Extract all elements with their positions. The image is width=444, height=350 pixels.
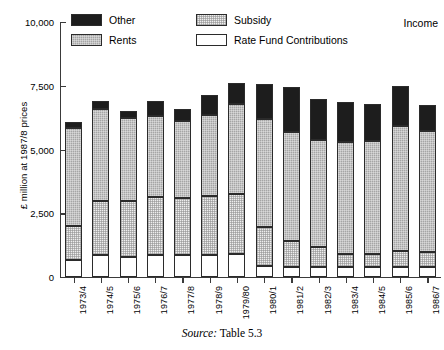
legend-label-rents: Rents xyxy=(109,34,136,46)
source-prefix: Source: xyxy=(182,327,217,339)
bar-segment-rents xyxy=(337,142,354,254)
bar-1976-7 xyxy=(147,22,164,277)
chart-legend: OtherRentsSubsidyRate Fund Contributions xyxy=(71,14,321,56)
bar-segment-subsidy xyxy=(392,251,409,267)
x-tick-label: 1973/4 xyxy=(78,286,88,314)
bar-segment-subsidy xyxy=(65,226,82,260)
chart-figure: £ million at 1987/8 prices 02,5005,0007,… xyxy=(0,0,444,350)
bar-segment-rfc xyxy=(256,266,273,277)
bar-segment-other xyxy=(392,86,409,127)
bar-segment-rfc xyxy=(147,255,164,277)
bar-segment-rents xyxy=(147,116,164,196)
bar-segment-rfc xyxy=(228,254,245,277)
bar-segment-rfc xyxy=(283,267,300,277)
x-tick-mark xyxy=(210,278,211,283)
bar-segment-subsidy xyxy=(337,254,354,267)
bar-segment-rents xyxy=(120,118,137,201)
bar-segment-other xyxy=(337,102,354,142)
x-tick-label: 1986/7 xyxy=(431,286,441,314)
legend-item-subsidy[interactable]: Subsidy xyxy=(196,14,271,26)
bar-1983-4 xyxy=(337,22,354,277)
bar-1982-3 xyxy=(310,22,327,277)
y-tick-label: 0 xyxy=(4,272,54,283)
legend-swatch-icon-other xyxy=(71,14,102,26)
bar-segment-other xyxy=(310,99,327,140)
source-note: Source: Table 5.3 xyxy=(0,327,444,339)
bar-segment-other xyxy=(65,122,82,128)
source-text: Table 5.3 xyxy=(220,327,263,339)
x-tick-label: 1981/2 xyxy=(295,286,305,314)
bar-1975-6 xyxy=(120,22,137,277)
bar-segment-other xyxy=(92,101,109,109)
bar-segment-rfc xyxy=(174,255,191,277)
bar-segment-rfc xyxy=(337,267,354,277)
corner-label: Income xyxy=(404,17,438,29)
bar-segment-rents xyxy=(310,140,327,247)
bar-segment-subsidy xyxy=(120,201,137,257)
bar-1986-7 xyxy=(419,22,436,277)
bar-segment-rents xyxy=(201,115,218,197)
x-tick-mark xyxy=(400,278,401,283)
bar-segment-other xyxy=(120,111,137,118)
bar-segment-other xyxy=(364,104,381,141)
x-tick-mark xyxy=(128,278,129,283)
x-tick-mark xyxy=(373,278,374,283)
bar-segment-rfc xyxy=(201,255,218,277)
bar-segment-other xyxy=(283,87,300,132)
bar-segment-other xyxy=(419,105,436,131)
x-tick-label: 1985/6 xyxy=(404,286,414,314)
bar-segment-rfc xyxy=(419,267,436,277)
x-tick-label: 1979/80 xyxy=(241,286,251,319)
bar-segment-subsidy xyxy=(419,252,436,267)
bar-segment-rents xyxy=(392,126,409,251)
x-tick-label: 1978/9 xyxy=(214,286,224,314)
x-tick-mark xyxy=(237,278,238,283)
bar-segment-subsidy xyxy=(92,201,109,256)
bar-segment-subsidy xyxy=(283,241,300,267)
bar-segment-rfc xyxy=(392,267,409,277)
x-tick-label: 1974/5 xyxy=(105,286,115,314)
bar-segment-rents xyxy=(364,141,381,253)
bar-segment-rents xyxy=(92,109,109,201)
x-tick-label: 1983/4 xyxy=(350,286,360,314)
bar-segment-rents xyxy=(283,132,300,242)
legend-item-other[interactable]: Other xyxy=(71,14,135,26)
bar-segment-rents xyxy=(174,121,191,198)
bar-segment-rfc xyxy=(65,260,82,277)
plot-area xyxy=(60,22,441,277)
x-tick-mark xyxy=(319,278,320,283)
x-tick-label: 1976/7 xyxy=(159,286,169,314)
bar-segment-other xyxy=(256,84,273,118)
bar-segment-rfc xyxy=(92,255,109,277)
legend-label-rfc: Rate Fund Contributions xyxy=(234,34,348,46)
bar-segment-subsidy xyxy=(228,194,245,254)
legend-label-subsidy: Subsidy xyxy=(234,14,271,26)
legend-item-rents[interactable]: Rents xyxy=(71,34,136,46)
bar-1980-1 xyxy=(256,22,273,277)
bar-1981-2 xyxy=(283,22,300,277)
y-tick-label: 7,500 xyxy=(4,80,54,91)
bar-segment-subsidy xyxy=(147,197,164,256)
bar-segment-rfc xyxy=(310,267,327,277)
bar-segment-other xyxy=(174,109,191,121)
bar-segment-subsidy xyxy=(174,198,191,255)
y-tick-label: 10,000 xyxy=(4,17,54,28)
legend-item-rfc[interactable]: Rate Fund Contributions xyxy=(196,34,348,46)
y-tick-label: 5,000 xyxy=(4,144,54,155)
bar-segment-rents xyxy=(256,119,273,227)
bar-segment-other xyxy=(201,95,218,115)
x-tick-label: 1980/1 xyxy=(268,286,278,314)
x-tick-mark xyxy=(101,278,102,283)
x-tick-mark xyxy=(74,278,75,283)
x-tick-mark xyxy=(182,278,183,283)
x-tick-label: 1982/3 xyxy=(323,286,333,314)
bar-1985-6 xyxy=(392,22,409,277)
x-tick-mark xyxy=(264,278,265,283)
y-tick-mark xyxy=(60,277,66,278)
y-tick-label: 2,500 xyxy=(4,208,54,219)
bar-1974-5 xyxy=(92,22,109,277)
x-axis-line xyxy=(60,277,441,278)
x-tick-label: 1977/8 xyxy=(186,286,196,314)
x-tick-mark xyxy=(427,278,428,283)
bar-1973-4 xyxy=(65,22,82,277)
